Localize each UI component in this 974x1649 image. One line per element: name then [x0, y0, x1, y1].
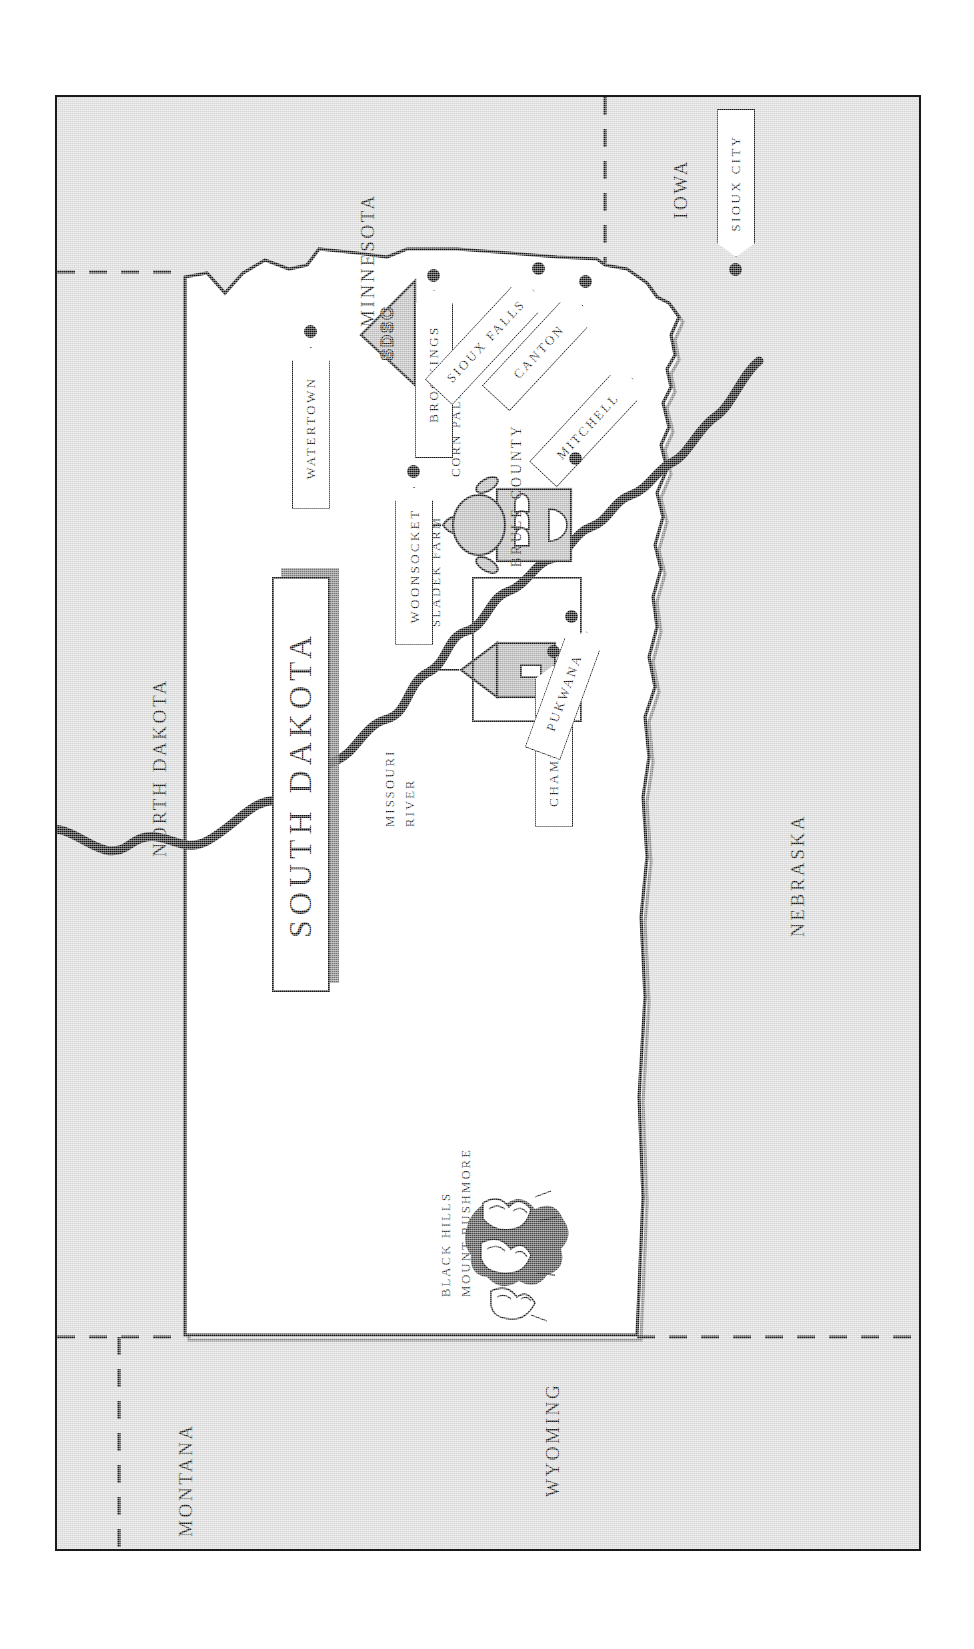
- state-label-wyoming: WYOMING: [542, 1383, 564, 1497]
- city-dot-mitchell: [569, 452, 582, 465]
- city-sign-woonsocket-label: WOONSOCKET: [406, 509, 422, 624]
- state-label-nebraska: NEBRASKA: [787, 814, 809, 937]
- city-sign-watertown-label: WATERTOWN: [303, 377, 319, 480]
- city-dot-watertown: [304, 325, 317, 338]
- mount-rushmore-label: MOUNT RUSHMORE: [459, 1148, 474, 1297]
- city-sign-woonsocket[interactable]: WOONSOCKET: [395, 487, 433, 645]
- city-dot-woonsocket: [407, 465, 420, 478]
- map-frame: NORTH DAKOTA MINNESOTA IOWA NEBRASKA WYO…: [55, 95, 921, 1551]
- sdsc-pennant-label: SDSC: [378, 305, 398, 360]
- city-dot-brookings: [427, 269, 440, 282]
- city-sign-sioux-city[interactable]: SIOUX CITY: [717, 109, 755, 257]
- missouri-river-label-line2: RIVER: [403, 779, 418, 828]
- city-sign-watertown[interactable]: WATERTOWN: [292, 347, 330, 509]
- county-label-brule: BRULE COUNTY: [509, 423, 525, 567]
- page-title: SOUTH DAKOTA: [283, 631, 320, 938]
- sdsc-pennant: SDSC: [357, 277, 419, 389]
- city-dot-canton: [579, 275, 592, 288]
- black-hills-label: BLACK HILLS: [439, 1192, 454, 1297]
- city-sign-sioux-city-label: SIOUX CITY: [728, 134, 744, 231]
- state-label-iowa: IOWA: [670, 159, 692, 219]
- state-title-box: SOUTH DAKOTA: [272, 577, 330, 992]
- city-dot-sioux-falls: [532, 262, 545, 275]
- city-dot-sioux-city: [729, 263, 742, 276]
- missouri-river-label-line1: MISSOURI: [383, 750, 398, 827]
- city-dot-pukwana: [565, 610, 578, 623]
- state-label-north-dakota: NORTH DAKOTA: [149, 678, 171, 857]
- state-label-montana: MONTANA: [175, 1423, 197, 1537]
